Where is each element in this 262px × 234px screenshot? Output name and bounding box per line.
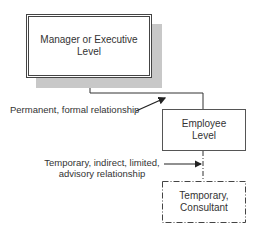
temporary-label-line2: advisory relationship [44, 168, 160, 179]
manager-executive-level-box: Manager or Executive Level [26, 14, 152, 78]
temporary-label-line1: Temporary, indirect, limited, [44, 157, 160, 168]
manager-box-line2: Level [40, 46, 137, 58]
permanent-relationship-arrow [136, 98, 165, 111]
temporary-relationship-label: Temporary, indirect, limited, advisory r… [44, 157, 160, 179]
employee-box-line1: Employee [182, 118, 226, 130]
temporary-box-line2: Consultant [179, 202, 228, 214]
permanent-relationship-label: Permanent, formal relationship [10, 104, 139, 115]
employee-box-line2: Level [182, 130, 226, 142]
temporary-consultant-box: Temporary, Consultant [163, 182, 245, 222]
employee-level-box: Employee Level [162, 109, 246, 151]
manager-box-line1: Manager or Executive [40, 34, 137, 46]
temporary-box-line1: Temporary, [179, 190, 228, 202]
